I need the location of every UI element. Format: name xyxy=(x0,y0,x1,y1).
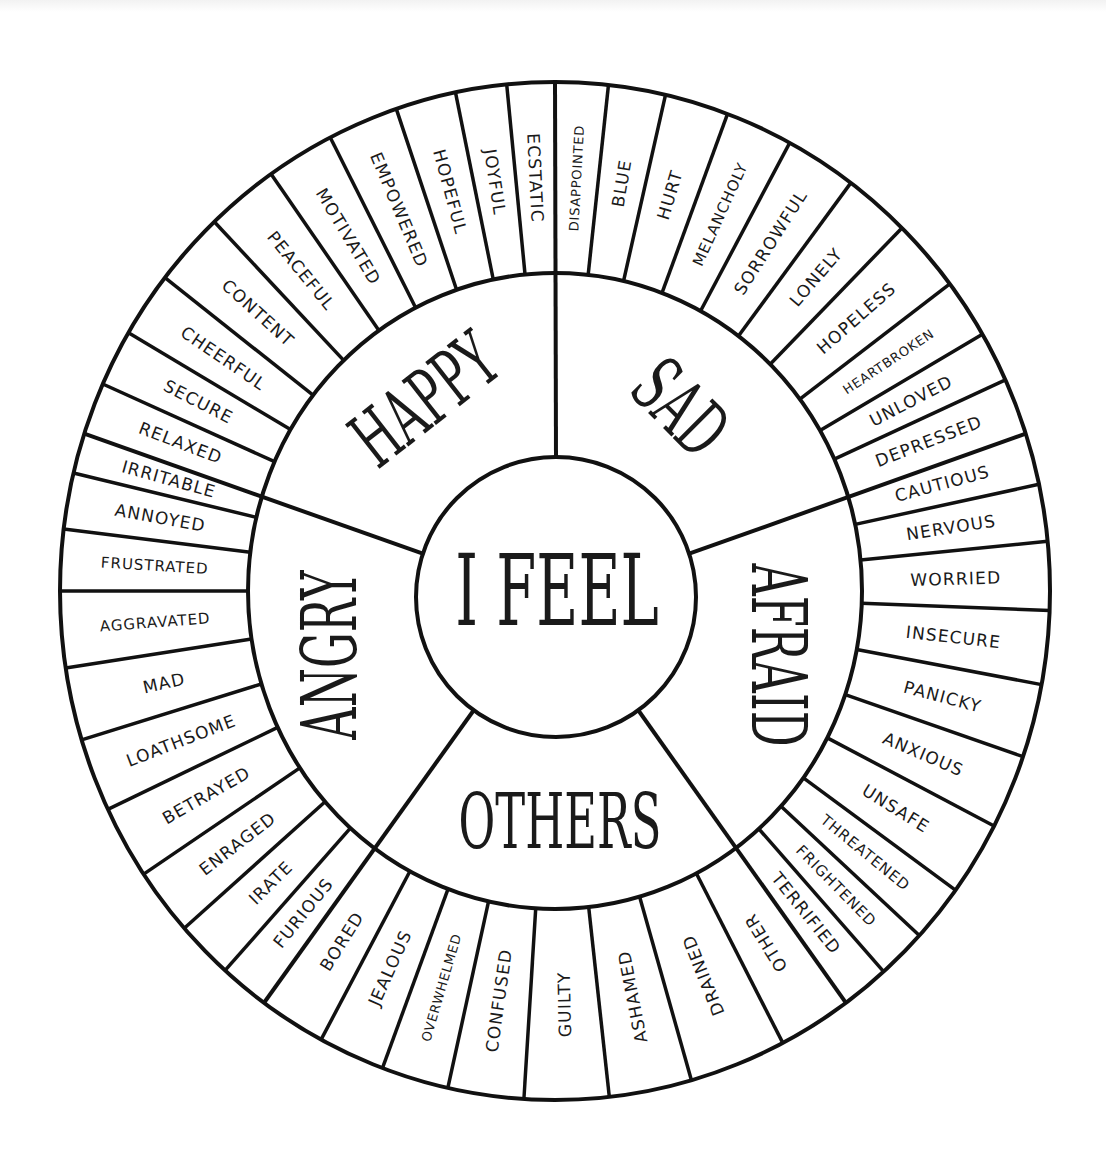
emotion-label-other: OTHER xyxy=(740,910,791,976)
segment-divider xyxy=(589,907,610,1097)
category-divider xyxy=(555,82,556,457)
emotion-label-ecstatic: ECSTATIC xyxy=(523,133,547,224)
emotion-label-drained: DRAINED xyxy=(678,932,728,1019)
emotion-label-betrayed: BETRAYED xyxy=(159,762,254,828)
emotion-label-peaceful: PEACEFUL xyxy=(263,227,339,314)
emotion-label-secure: SECURE xyxy=(160,375,236,427)
emotion-label-empowered: EMPOWERED xyxy=(366,149,432,270)
emotion-label-loathsome: LOATHSOME xyxy=(124,710,239,771)
segment-divider xyxy=(507,84,525,274)
emotion-label-blue: BLUE xyxy=(608,158,636,209)
emotion-label-mad: MAD xyxy=(141,668,187,697)
emotion-label-insecure: INSECURE xyxy=(905,622,1002,653)
emotion-label-cheerful: CHEERFUL xyxy=(177,322,270,394)
segment-divider xyxy=(862,603,1050,610)
emotion-label-panicky: PANICKY xyxy=(902,677,984,717)
segment-divider xyxy=(66,639,252,668)
emotion-label-frustrated: FRUSTRATED xyxy=(100,553,209,578)
emotion-label-annoyed: ANNOYED xyxy=(113,500,207,536)
emotion-label-unloved: UNLOVED xyxy=(866,371,956,431)
emotion-label-melancholy: MELANCHOLY xyxy=(689,160,751,269)
emotion-label-nervous: NERVOUS xyxy=(905,511,998,545)
segment-divider xyxy=(82,684,262,740)
emotion-label-hopeless: HOPELESS xyxy=(813,278,900,358)
feelings-wheel: DISAPPOINTEDBLUEHURTMELANCHOLYSORROWFULL… xyxy=(0,0,1106,1161)
emotion-label-irate: IRATE xyxy=(245,857,297,909)
emotion-label-content: CONTENT xyxy=(218,275,299,351)
category-label-others: OTHERS xyxy=(459,777,662,866)
category-label-happy: HAPPY xyxy=(334,315,517,485)
emotion-label-hurt: HURT xyxy=(653,168,687,223)
category-label-angry: ANGRY xyxy=(285,569,374,740)
emotion-label-ashamed: ASHAMED xyxy=(614,949,652,1045)
emotion-label-confused: CONFUSED xyxy=(482,947,516,1053)
emotion-label-relaxed: RELAXED xyxy=(136,418,225,468)
segment-divider xyxy=(861,541,1048,560)
category-label-sad: SAD xyxy=(613,341,746,474)
segment-divider xyxy=(857,649,1042,684)
category-label-afraid: AFRAID xyxy=(733,563,822,747)
emotion-label-aggravated: AGGRAVATED xyxy=(99,609,211,635)
segment-divider xyxy=(524,908,536,1099)
segment-divider xyxy=(448,901,489,1087)
segment-divider xyxy=(64,529,251,552)
emotion-label-lonely: LONELY xyxy=(785,244,846,311)
emotion-label-enraged: ENRAGED xyxy=(195,808,280,880)
emotion-label-guilty: GUILTY xyxy=(554,971,576,1037)
emotion-label-joyful: JOYFUL xyxy=(480,147,510,217)
emotion-label-disappointed: DISAPPOINTED xyxy=(566,125,587,232)
segment-divider xyxy=(588,85,608,275)
emotion-label-motivated: MOTIVATED xyxy=(312,185,385,289)
segment-divider xyxy=(640,897,692,1081)
center-label: I FEEL xyxy=(455,532,658,648)
emotion-label-worried: WORRIED xyxy=(910,567,1002,590)
